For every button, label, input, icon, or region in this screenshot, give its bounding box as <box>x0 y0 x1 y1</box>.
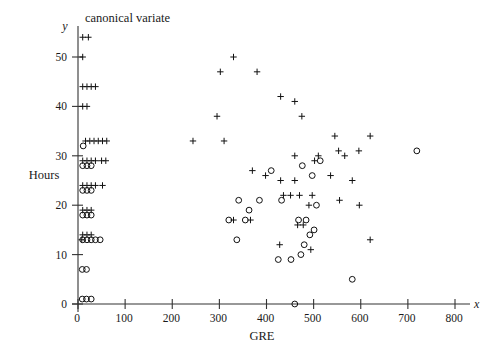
data-point-circle <box>279 197 285 203</box>
y-tick-label: 20 <box>56 199 68 211</box>
data-point-circle <box>296 217 302 223</box>
y-tick-label: 0 <box>61 298 67 310</box>
data-point-plus <box>254 69 260 75</box>
data-point-plus <box>104 138 110 144</box>
data-point-circle <box>80 143 86 149</box>
data-point-circle <box>298 252 304 258</box>
data-point-plus <box>214 113 220 119</box>
data-point-plus <box>327 172 333 178</box>
data-point-plus <box>356 202 362 208</box>
x-tick-label: 400 <box>257 312 275 324</box>
data-point-circle <box>236 197 242 203</box>
data-point-plus <box>299 113 305 119</box>
data-point-plus <box>356 148 362 154</box>
data-point-circle <box>311 227 317 233</box>
axes-group <box>72 26 470 312</box>
data-point-plus <box>296 192 302 198</box>
data-point-plus <box>332 133 338 139</box>
chart-canvas: 010020030040050060070080001020304050 can… <box>0 0 490 352</box>
data-point-plus <box>85 34 91 40</box>
data-point-circle <box>314 202 320 208</box>
data-point-plus <box>230 54 236 60</box>
data-point-plus <box>276 242 282 248</box>
data-point-plus <box>309 192 315 198</box>
scatter-plot-figure: 010020030040050060070080001020304050 can… <box>0 0 490 352</box>
data-point-plus <box>92 83 98 89</box>
x-tick-label: 600 <box>351 312 369 324</box>
data-point-plus <box>84 103 90 109</box>
data-point-circle <box>301 242 307 248</box>
data-point-circle <box>303 217 309 223</box>
data-point-plus <box>292 98 298 104</box>
data-point-plus <box>287 192 293 198</box>
data-point-circle <box>257 197 263 203</box>
data-point-plus <box>190 138 196 144</box>
data-point-plus <box>292 177 298 183</box>
data-point-circle <box>288 257 294 263</box>
data-point-plus <box>292 153 298 159</box>
chart-title: canonical variate <box>85 11 170 25</box>
data-point-plus <box>262 172 268 178</box>
data-point-circle <box>275 257 281 263</box>
data-point-plus <box>80 34 86 40</box>
y-axis-symbol: y <box>61 19 68 33</box>
x-tick-label: 800 <box>445 312 463 324</box>
data-point-circle <box>246 207 252 213</box>
data-point-circle <box>84 267 90 273</box>
data-point-plus <box>80 54 86 60</box>
data-point-plus <box>221 138 227 144</box>
x-tick-label: 700 <box>398 312 416 324</box>
data-point-plus <box>277 177 283 183</box>
data-point-plus <box>217 69 223 75</box>
x-axis-symbol: x <box>473 297 480 311</box>
data-point-plus <box>99 182 105 188</box>
data-point-plus <box>336 197 342 203</box>
y-tick-label: 30 <box>56 150 68 162</box>
data-point-plus <box>367 237 373 243</box>
data-point-circle <box>299 163 305 169</box>
data-point-plus <box>311 158 317 164</box>
data-point-circle <box>234 237 240 243</box>
data-point-circle <box>309 173 315 179</box>
data-point-plus <box>335 148 341 154</box>
data-point-plus <box>349 177 355 183</box>
data-point-plus <box>277 93 283 99</box>
data-point-plus <box>306 202 312 208</box>
data-point-plus <box>308 246 314 252</box>
data-markers-group <box>79 34 420 307</box>
axis-labels-group: canonical variateyxGREHours <box>29 11 480 343</box>
data-point-plus <box>249 167 255 173</box>
ticks-group: 010020030040050060070080001020304050 <box>56 51 463 324</box>
y-tick-label: 10 <box>56 249 68 261</box>
data-point-plus <box>367 133 373 139</box>
y-axis-label: Hours <box>29 168 60 182</box>
y-tick-label: 50 <box>56 51 68 63</box>
data-point-circle <box>307 232 313 238</box>
y-tick-label: 40 <box>56 100 68 112</box>
data-point-circle <box>317 158 323 164</box>
x-tick-label: 200 <box>163 312 181 324</box>
data-point-plus <box>342 153 348 159</box>
x-tick-label: 100 <box>116 312 134 324</box>
data-point-circle <box>268 168 274 174</box>
x-tick-label: 500 <box>304 312 322 324</box>
data-point-circle <box>414 148 420 154</box>
x-tick-label: 0 <box>74 312 80 324</box>
x-tick-label: 300 <box>210 312 228 324</box>
data-point-plus <box>103 158 109 164</box>
x-axis-label: GRE <box>250 329 275 343</box>
data-point-circle <box>349 276 355 282</box>
